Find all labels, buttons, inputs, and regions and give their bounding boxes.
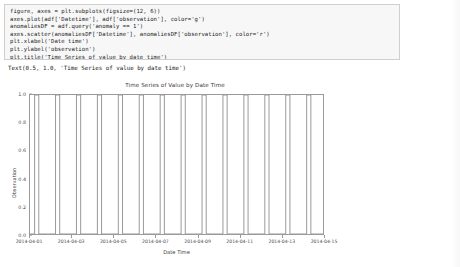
x-tick-mark <box>113 235 114 238</box>
x-tick-mark <box>29 235 30 238</box>
y-axis: Observation 1.00.80.60.40.20.0 <box>6 94 26 235</box>
code-line: plt.title('Time Series of value by date … <box>10 54 394 60</box>
plot-area <box>29 94 324 235</box>
x-tick-label: 2014-04-11 <box>226 239 253 244</box>
x-tick-label: 2014-04-15 <box>311 239 338 244</box>
x-tick-mark <box>240 235 241 238</box>
x-tick-mark <box>282 235 283 238</box>
y-tick-label: 0.2 <box>18 204 26 209</box>
code-line: axes.plot(adf['Datetime'], adf['observat… <box>10 16 394 24</box>
code-line: anomaliesDF = adf.query('anomaly == 1') <box>10 23 394 31</box>
y-tick-label: 1.0 <box>18 92 26 97</box>
x-tick-label: 2014-04-05 <box>100 239 127 244</box>
x-tick-label: 2014-04-13 <box>268 239 295 244</box>
y-tick-label: 0.0 <box>18 233 26 238</box>
x-tick-mark <box>71 235 72 238</box>
matplotlib-figure: Time Series of Value by Date Time Observ… <box>0 78 460 267</box>
cell-output-text: Text(0.5, 1.0, 'Time Series of value by … <box>8 64 186 72</box>
x-tick-label: 2014-04-07 <box>142 239 169 244</box>
chart-title: Time Series of Value by Date Time <box>0 82 350 88</box>
notebook-code-cell[interactable]: figure, axes = plt.subplots(figsize=(12,… <box>4 4 400 60</box>
x-tick-label: 2014-04-01 <box>16 239 43 244</box>
x-tick-label: 2014-04-09 <box>184 239 211 244</box>
y-tick-label: 0.8 <box>18 120 26 125</box>
x-tick-label: 2014-04-03 <box>58 239 85 244</box>
y-tick-label: 0.4 <box>18 176 26 181</box>
x-tick-mark <box>198 235 199 238</box>
code-line: plt.xlabel('Date time') <box>10 38 394 46</box>
x-tick-mark <box>324 235 325 238</box>
x-tick-mark <box>155 235 156 238</box>
code-line: axes.scatter(anomaliesDF['Datetime'], an… <box>10 31 394 39</box>
series-observation <box>30 95 323 234</box>
y-tick-label: 0.6 <box>18 148 26 153</box>
y-axis-label: Observation <box>11 153 17 213</box>
code-line: plt.ylabel('observation') <box>10 46 394 54</box>
x-axis-label: Date Time <box>29 249 324 255</box>
x-axis: 2014-04-012014-04-032014-04-052014-04-07… <box>29 235 324 249</box>
code-line: figure, axes = plt.subplots(figsize=(12,… <box>10 8 394 16</box>
